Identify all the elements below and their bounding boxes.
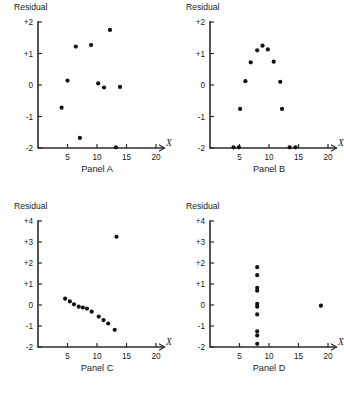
panel-c: ResidualX-2-10+1+2+3+45101520Panel C: [0, 199, 172, 408]
data-point: [243, 79, 247, 83]
y-tick-label: -1: [26, 322, 34, 331]
data-point: [72, 302, 76, 306]
y-tick-label: +2: [196, 259, 206, 268]
data-point: [266, 47, 270, 51]
y-tick-label: +2: [24, 18, 34, 27]
y-axis-title: Residual: [186, 201, 220, 211]
x-tick-label: 20: [323, 352, 333, 361]
x-tick-label: 20: [151, 352, 161, 361]
data-point: [255, 48, 259, 52]
x-tick-label: 10: [92, 153, 102, 162]
y-tick-label: +3: [24, 238, 34, 247]
panel-d: ResidualX-2-10+1+2+3+45101520Panel D: [172, 199, 344, 408]
y-tick-label: 0: [28, 301, 33, 310]
y-axis-title: Residual: [14, 2, 48, 12]
panel-title: Panel B: [253, 164, 285, 174]
y-tick-label: +1: [24, 50, 34, 59]
data-point: [89, 43, 93, 47]
y-tick-label: 0: [200, 301, 205, 310]
y-tick-label: +2: [24, 259, 34, 268]
y-tick-label: 0: [28, 81, 33, 90]
data-point: [255, 329, 259, 333]
x-tick-label: 20: [151, 153, 161, 162]
axes: [38, 22, 164, 148]
x-axis-title: X: [165, 138, 172, 148]
panel-title: Panel C: [81, 363, 114, 373]
data-point: [113, 328, 117, 332]
data-point: [255, 342, 259, 346]
panel-a: ResidualX-2-10+1+25101520Panel A: [0, 0, 172, 209]
residual-plot-figure: ResidualX-2-10+1+25101520Panel A Residua…: [0, 0, 344, 418]
plot-panel-c: ResidualX-2-10+1+2+3+45101520Panel C: [0, 199, 172, 408]
data-point: [255, 265, 259, 269]
x-tick-label: 15: [122, 153, 132, 162]
axes: [210, 221, 336, 347]
y-tick-label: +1: [24, 280, 34, 289]
y-tick-label: +1: [196, 280, 206, 289]
data-point: [255, 333, 259, 337]
x-tick-label: 10: [92, 352, 102, 361]
data-point: [81, 305, 85, 309]
data-point: [90, 310, 94, 314]
data-point: [102, 85, 106, 89]
panel-b: ResidualX-2-10+1+25101520Panel B: [172, 0, 344, 209]
data-point: [60, 106, 64, 110]
x-tick-label: 15: [294, 153, 304, 162]
data-point: [232, 145, 236, 149]
data-point: [114, 145, 118, 149]
y-axis-title: Residual: [186, 2, 220, 12]
y-tick-label: 0: [200, 81, 205, 90]
x-tick-label: 5: [237, 153, 242, 162]
x-tick-label: 15: [122, 352, 132, 361]
plot-panel-d: ResidualX-2-10+1+2+3+45101520Panel D: [172, 199, 344, 408]
panel-title: Panel D: [253, 363, 286, 373]
y-tick-label: -2: [26, 343, 34, 352]
y-tick-label: +3: [196, 238, 206, 247]
y-tick-label: +1: [196, 50, 206, 59]
data-point: [280, 107, 284, 111]
data-point: [272, 60, 276, 64]
y-tick-label: +2: [196, 18, 206, 27]
data-point: [108, 28, 112, 32]
data-point: [319, 304, 323, 308]
data-point: [65, 78, 69, 82]
data-point: [278, 80, 282, 84]
data-point: [97, 314, 101, 318]
data-point: [260, 44, 264, 48]
x-axis-title: X: [165, 337, 172, 347]
data-point: [288, 145, 292, 149]
data-point: [85, 306, 89, 310]
x-tick-label: 20: [323, 153, 333, 162]
y-tick-label: -1: [26, 113, 34, 122]
data-point: [68, 299, 72, 303]
x-tick-label: 5: [237, 352, 242, 361]
plot-panel-b: ResidualX-2-10+1+25101520Panel B: [172, 0, 344, 209]
axes: [38, 221, 164, 347]
x-tick-label: 15: [294, 352, 304, 361]
y-tick-label: +4: [24, 217, 34, 226]
data-point: [101, 318, 105, 322]
y-axis-title: Residual: [14, 201, 48, 211]
data-point: [96, 81, 100, 85]
y-tick-label: -2: [198, 144, 206, 153]
data-point: [293, 145, 297, 149]
x-tick-label: 5: [65, 352, 70, 361]
y-tick-label: -2: [198, 343, 206, 352]
data-point: [237, 145, 241, 149]
plot-panel-a: ResidualX-2-10+1+25101520Panel A: [0, 0, 172, 209]
data-point: [63, 297, 67, 301]
data-point: [255, 289, 259, 293]
x-axis-title: X: [337, 337, 344, 347]
data-point: [106, 321, 110, 325]
data-point: [249, 60, 253, 64]
x-tick-label: 10: [264, 352, 274, 361]
data-point: [114, 235, 118, 239]
x-tick-label: 5: [65, 153, 70, 162]
data-point: [118, 85, 122, 89]
data-point: [78, 136, 82, 140]
data-point: [238, 107, 242, 111]
y-tick-label: -1: [198, 322, 206, 331]
y-tick-label: -2: [26, 144, 34, 153]
panel-title: Panel A: [81, 164, 114, 174]
data-point: [255, 312, 259, 316]
